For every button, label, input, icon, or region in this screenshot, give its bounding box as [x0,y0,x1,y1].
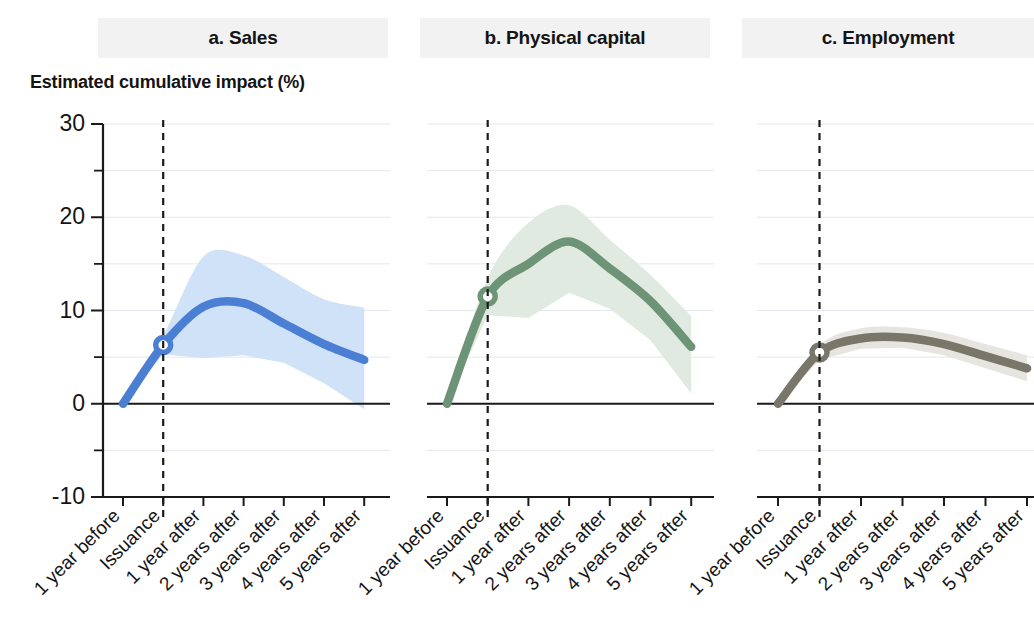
panel-b: 1 year beforeIssuance1 year after2 years… [354,120,714,599]
y-tick-label: 0 [72,390,85,416]
y-tick-label: -10 [52,483,85,509]
confidence-band [123,250,364,410]
panel-c: 1 year beforeIssuance1 year after2 years… [685,120,1034,599]
y-tick-label: 30 [59,110,85,136]
panel-a: 1 year beforeIssuance1 year after2 years… [30,110,390,599]
chart-stage: 1 year beforeIssuance1 year after2 years… [0,0,1034,626]
y-tick-label: 10 [59,297,85,323]
multi-panel-line-chart: 1 year beforeIssuance1 year after2 years… [0,0,1034,626]
y-tick-label: 20 [59,203,85,229]
